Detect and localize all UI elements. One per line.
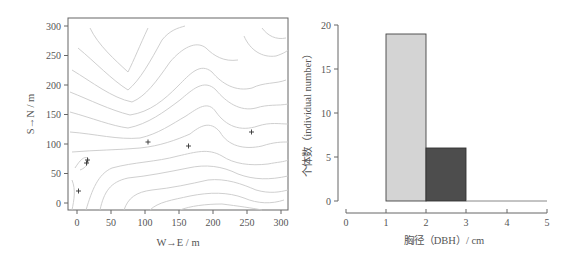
x-tick-label: 0 bbox=[75, 217, 80, 228]
y-tick-label: 0 bbox=[326, 196, 331, 207]
x-axis-title: W→E / m bbox=[156, 237, 199, 248]
x-tick-label: 3 bbox=[464, 217, 469, 228]
bar-1-2cm bbox=[386, 34, 426, 201]
x-tick-label: 150 bbox=[172, 217, 187, 228]
y-tick-label: 150 bbox=[46, 109, 61, 120]
y-tick-label: 200 bbox=[46, 80, 61, 91]
dbh-histogram-chart: 20 15 10 5 0 个体数（individual number） 0 1 … bbox=[301, 20, 550, 247]
y-tick-label: 300 bbox=[46, 21, 61, 32]
y-axis-title: 个体数（individual number） bbox=[301, 49, 313, 176]
x-tick-label: 1 bbox=[384, 217, 389, 228]
x-tick-label: 0 bbox=[344, 217, 349, 228]
left-y-axis: 300 250 200 150 100 50 0 S→N / m bbox=[25, 21, 68, 209]
y-axis-title: S→N / m bbox=[25, 94, 36, 134]
x-tick-label: 4 bbox=[505, 217, 510, 228]
contour-map-chart: 300 250 200 150 100 50 0 S→N / m 0 50 10… bbox=[25, 18, 289, 248]
x-tick-label: 200 bbox=[206, 217, 221, 228]
x-tick-label: 2 bbox=[424, 217, 429, 228]
figure: 300 250 200 150 100 50 0 S→N / m 0 50 10… bbox=[0, 0, 577, 263]
y-tick-label: 10 bbox=[321, 108, 331, 119]
right-y-axis: 20 15 10 5 0 个体数（individual number） bbox=[301, 20, 338, 207]
bar-2-3cm bbox=[426, 148, 466, 201]
plot-frame bbox=[68, 18, 288, 210]
x-tick-label: 250 bbox=[240, 217, 255, 228]
y-tick-label: 50 bbox=[51, 168, 61, 179]
x-tick-label: 300 bbox=[274, 217, 289, 228]
y-tick-label: 100 bbox=[46, 139, 61, 150]
left-x-axis: 0 50 100 150 200 250 300 W→E / m bbox=[75, 210, 289, 248]
x-axis-title: 胸径（DBH）/ cm bbox=[404, 234, 485, 246]
x-tick-label: 100 bbox=[138, 217, 153, 228]
y-tick-label: 0 bbox=[56, 198, 61, 209]
y-tick-label: 250 bbox=[46, 50, 61, 61]
y-tick-label: 15 bbox=[321, 64, 331, 75]
y-tick-label: 5 bbox=[326, 152, 331, 163]
x-tick-label: 5 bbox=[545, 217, 550, 228]
x-tick-label: 50 bbox=[106, 217, 116, 228]
right-x-axis: 0 1 2 3 4 5 胸径（DBH）/ cm bbox=[344, 209, 550, 246]
y-tick-label: 20 bbox=[321, 20, 331, 31]
